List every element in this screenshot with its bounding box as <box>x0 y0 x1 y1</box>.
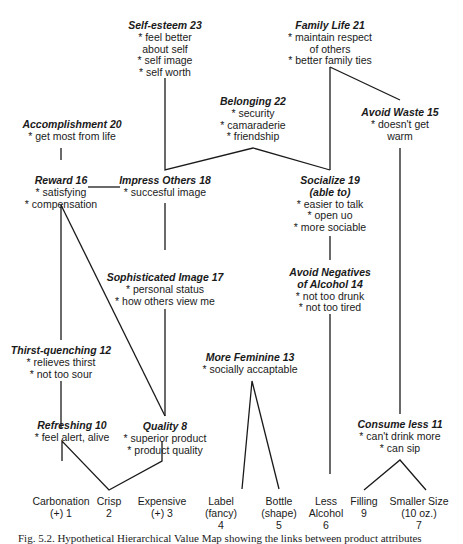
attr-filling: Filling 9 <box>350 496 377 520</box>
node-line: * not too sour <box>11 369 111 381</box>
node-line: * socially accaptable <box>202 364 297 376</box>
attr-less-alcohol: Less Alcohol 6 <box>309 496 343 531</box>
figure-caption: Fig. 5.2. Hypothetical Hierarchical Valu… <box>18 532 422 544</box>
attr-line: (shape) <box>261 508 297 520</box>
link-filling-consume-smaller <box>364 460 426 490</box>
node-line: * feel better <box>128 32 202 44</box>
node-line: * can't drink more <box>357 431 442 443</box>
node-line: * succesful image <box>119 187 211 199</box>
node-family-life: Family Life 21 * maintain respect of oth… <box>288 20 372 67</box>
node-quality: Quality 8 * superior product * product q… <box>124 421 207 456</box>
node-line: * doesn't get <box>361 119 438 131</box>
node-belonging: Belonging 22 * security * camaraderie * … <box>220 96 286 143</box>
node-line: * get most from life <box>22 131 121 143</box>
attr-line: (+) 3 <box>138 508 186 520</box>
link-family-life-avoid-waste <box>330 67 400 100</box>
attr-line: Alcohol <box>309 508 343 520</box>
attr-line: (10 oz.) <box>390 508 449 520</box>
attr-carbonation: Carbonation (+) 1 <box>32 496 89 520</box>
node-sophisticated-image: Sophisticated Image 17 * personal status… <box>107 272 224 307</box>
node-line: * self worth <box>128 67 202 79</box>
attr-line: 5 <box>261 520 297 532</box>
attr-bottle: Bottle (shape) 5 <box>261 496 297 531</box>
node-line: * relieves thirst <box>11 357 111 369</box>
node-line: * compensation <box>25 199 97 211</box>
attr-line: 9 <box>350 508 377 520</box>
node-line: * satisfying <box>25 187 97 199</box>
node-line: * personal status <box>107 284 224 296</box>
node-line: warm <box>361 131 438 143</box>
node-line: * can sip <box>357 443 442 455</box>
link-lines <box>0 0 463 544</box>
attr-expensive: Expensive (+) 3 <box>138 496 186 520</box>
node-impress-others: Impress Others 18 * succesful image <box>119 175 211 199</box>
attr-line: 7 <box>390 520 449 532</box>
node-line: * how others view me <box>107 296 224 308</box>
node-accomplishment: Accomplishment 20 * get most from life <box>22 119 121 143</box>
attr-line: 4 <box>205 520 237 532</box>
node-title-2: (able to) <box>294 187 366 199</box>
node-line: * maintain respect <box>288 32 372 44</box>
node-avoid-negatives: Avoid Negatives of Alcohol 14 * not too … <box>289 267 371 314</box>
link-label-feminine-bottle <box>242 381 279 489</box>
attr-line: 6 <box>309 520 343 532</box>
node-title-2: of Alcohol 14 <box>289 279 371 291</box>
node-socialize: Socialize 19 (able to) * easier to talk … <box>294 175 366 234</box>
node-line: * feel alert, alive <box>35 432 110 444</box>
node-avoid-waste: Avoid Waste 15 * doesn't get warm <box>361 107 438 142</box>
node-reward: Reward 16 * satisfying * compensation <box>25 175 97 210</box>
attr-smaller-size: Smaller Size (10 oz.) 7 <box>390 496 449 531</box>
attr-line: (fancy) <box>205 508 237 520</box>
node-line: * better family ties <box>288 55 372 67</box>
attr-crisp: Crisp 2 <box>97 496 122 520</box>
node-line: * not too tired <box>289 302 371 314</box>
node-line: * more sociable <box>294 222 366 234</box>
link-reward-quality <box>61 205 165 416</box>
node-line: * product quality <box>124 445 207 457</box>
attr-line: (+) 1 <box>32 508 89 520</box>
node-refreshing: Refreshing 10 * feel alert, alive <box>35 420 110 444</box>
attr-label: Label (fancy) 4 <box>205 496 237 531</box>
node-line: * security <box>220 108 286 120</box>
node-consume-less: Consume less 11 * can't drink more * can… <box>357 419 442 454</box>
node-more-feminine: More Feminine 13 * socially accaptable <box>202 352 297 376</box>
attr-line: 2 <box>97 508 122 520</box>
node-line: * friendship <box>220 131 286 143</box>
node-self-esteem: Self-esteem 23 * feel better about self … <box>128 20 202 79</box>
node-line: * superior product <box>124 433 207 445</box>
node-thirst-quenching: Thirst-quenching 12 * relieves thirst * … <box>11 345 111 380</box>
